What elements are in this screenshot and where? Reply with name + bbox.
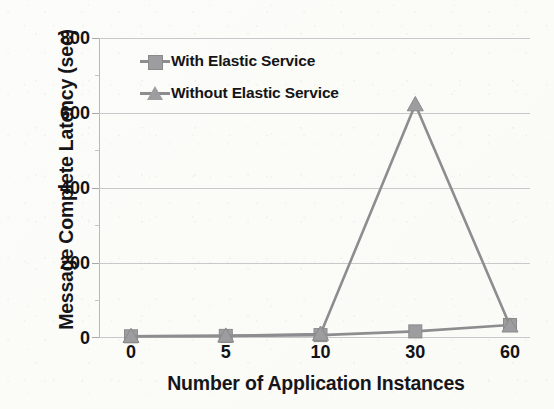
- series-line: [131, 105, 510, 337]
- chart-figure: Message Complete Latency (sec) 800 600 4…: [0, 0, 554, 409]
- y-tickmark: [92, 337, 99, 338]
- legend-item-without-elastic-service[interactable]: Without Elastic Service: [140, 80, 339, 106]
- y-tickmark: [92, 113, 99, 114]
- y-tick-label: 600: [18, 103, 90, 124]
- y-tick-label: 400: [18, 178, 90, 199]
- x-tick-label: 60: [500, 342, 520, 363]
- y-tick-label: 800: [18, 28, 90, 49]
- y-axis-tick-labels: 800 600 400 200 0: [18, 0, 90, 409]
- x-tick-label: 10: [310, 342, 330, 363]
- x-tick-label: 30: [405, 342, 425, 363]
- x-tick-label: 5: [221, 342, 231, 363]
- y-tickmark: [92, 263, 99, 264]
- legend-item-label: Without Elastic Service: [171, 84, 339, 102]
- y-tick-label: 200: [18, 253, 90, 274]
- x-axis-title: Number of Application Instances: [96, 372, 536, 395]
- x-tick-label: 0: [126, 342, 136, 363]
- square-marker-icon: [140, 52, 170, 70]
- y-tickmark: [92, 38, 99, 39]
- legend-item-with-elastic-service[interactable]: With Elastic Service: [140, 48, 339, 74]
- y-tick-label: 0: [18, 328, 90, 349]
- triangle-marker-icon: [140, 84, 170, 102]
- y-tickmark: [92, 188, 99, 189]
- chart-legend: With Elastic Service Without Elastic Ser…: [140, 48, 339, 112]
- data-point-square: [409, 325, 422, 338]
- data-point-triangle: [407, 97, 423, 111]
- legend-item-label: With Elastic Service: [171, 52, 315, 70]
